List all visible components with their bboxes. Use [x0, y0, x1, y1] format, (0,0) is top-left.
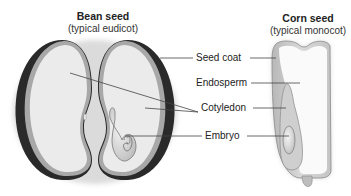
bean-seed-title: Bean seed	[63, 10, 143, 22]
bean-right-half	[98, 40, 175, 180]
corn-seed-title: Corn seed	[268, 12, 348, 24]
corn-seed-subtitle: (typical monocot)	[258, 25, 351, 36]
corn-embryo	[283, 126, 295, 154]
label-endosperm: Endosperm	[196, 77, 247, 89]
bean-seed-subtitle: (typical eudicot)	[53, 23, 153, 34]
corn-seed	[272, 41, 331, 187]
bean-left-half	[15, 40, 92, 180]
label-embryo: Embryo	[205, 130, 239, 142]
label-seed-coat: Seed coat	[196, 52, 241, 64]
label-cotyledon: Cotyledon	[201, 102, 246, 114]
